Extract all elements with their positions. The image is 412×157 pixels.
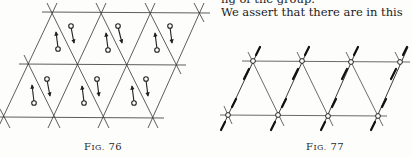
caption-number: 77: [330, 141, 344, 152]
caption-smallcaps: IG.: [91, 143, 104, 152]
figure-77-lattice: [220, 52, 410, 126]
figure-77-nodes: [226, 59, 403, 119]
figures-canvas: [0, 0, 412, 157]
figure-76-lattice: [0, 3, 210, 130]
figure-76-caption: FIG. 76: [84, 141, 122, 152]
figure-77-caption: FIG. 77: [306, 141, 344, 152]
caption-smallcaps: IG.: [313, 143, 326, 152]
caption-number: 76: [108, 141, 122, 152]
arrow-pair: [32, 77, 50, 106]
arrow-pair: [56, 24, 74, 52]
